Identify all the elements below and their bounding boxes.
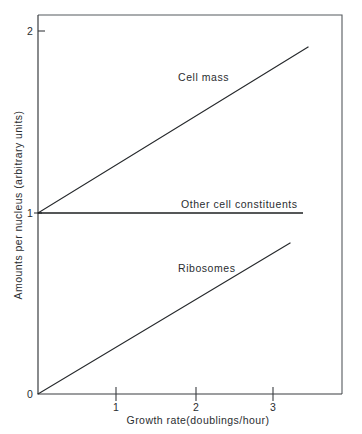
line-chart: 2 1 0 1 2 3 Cell mass Other cell constit… [0,0,362,434]
y-axis-title: Amounts per nucleus (arbitrary units) [12,111,24,300]
series-label-other-cell-constituents: Other cell constituents [181,198,298,210]
x-tick-label-2: 2 [193,401,199,413]
series-line-ribosomes [38,243,290,394]
x-tick-label-1: 1 [113,401,119,413]
y-tick-label-1: 1 [27,207,33,219]
series-label-ribosomes: Ribosomes [178,262,235,274]
y-tick-label-2: 2 [27,25,33,37]
x-tick-label-3: 3 [270,401,276,413]
series-label-cell-mass: Cell mass [178,71,229,83]
chart-figure: 2 1 0 1 2 3 Cell mass Other cell constit… [0,0,362,434]
x-axis-title: Growth rate(doublings/hour) [127,414,270,426]
series-line-cell-mass [38,47,308,213]
y-tick-label-0: 0 [27,388,33,400]
